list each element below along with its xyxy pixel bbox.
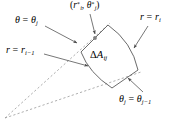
leader-sample-point [90,14,95,34]
theta-lower-equals: = [126,93,137,104]
theta-lower-rhs-sub: j−1 [142,98,151,105]
area-element-label: ΔAij [90,50,107,62]
r-inner-sub: i−1 [25,49,34,56]
leader-r-outer [134,26,148,48]
leader-r-inner [44,54,88,66]
theta-lower-label: θj = θj−1 [119,94,151,105]
cell-arc-outer [108,25,138,70]
leader-theta-upper [45,26,77,43]
r-outer-sub: i [159,16,161,23]
cell-edge-radial-lower [112,70,138,88]
r-inner-label: r = ri−1 [6,45,34,56]
theta-upper-label: θ = θj [15,15,38,26]
theta-upper-equals: = [20,14,31,25]
area-element-delta: Δ [90,49,97,60]
leader-theta-lower [128,78,143,92]
sample-point-close-paren: ) [96,0,99,10]
polar-area-element-figure: (r*i, θ*j) θ = θj r = ri r = ri−1 ΔAij θ… [0,0,179,127]
sample-point-marker [93,36,97,40]
area-element-sub: ij [103,54,107,61]
r-inner-equals: = [10,44,21,55]
r-outer-label: r = ri [140,12,161,23]
r-outer-equals: = [144,11,155,22]
sample-point-label: (r*i, θ*j) [70,1,100,11]
theta-upper-sub: j [36,19,38,26]
